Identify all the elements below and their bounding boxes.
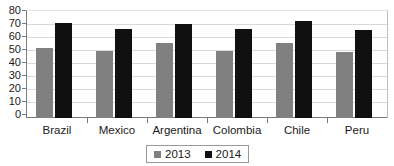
x-tick-mark [207, 118, 208, 123]
bar-colombia-2013 [216, 51, 233, 118]
y-tick-mark [22, 23, 26, 24]
y-tick-label: 50 [9, 44, 21, 55]
y-tick-label: 0 [15, 109, 21, 120]
legend-label: 2014 [216, 148, 242, 160]
legend: 2013 2014 [146, 145, 249, 163]
y-tick-label: 30 [9, 70, 21, 81]
bar-brazil-2014 [55, 23, 72, 118]
y-tick-label: 40 [9, 57, 21, 68]
bar-chart: 80 70 60 50 40 30 20 10 0 BrazilMexicoAr… [0, 0, 394, 166]
bar-peru-2014 [355, 30, 372, 118]
y-tick-mark [22, 36, 26, 37]
y-tick-mark [22, 62, 26, 63]
y-tick-mark [22, 88, 26, 89]
bar-brazil-2013 [36, 48, 53, 118]
x-category-label: Mexico [87, 124, 147, 137]
x-category-label: Argentina [147, 124, 207, 137]
legend-swatch-icon [154, 151, 161, 158]
y-tick-label: 10 [9, 96, 21, 107]
x-category-label: Peru [327, 124, 387, 137]
y-tick-label: 80 [9, 5, 21, 16]
y-tick-label: 70 [9, 18, 21, 29]
y-tick-label: 60 [9, 31, 21, 42]
x-category-label: Colombia [207, 124, 267, 137]
bar-mexico-2013 [96, 51, 113, 118]
bar-colombia-2014 [235, 29, 252, 118]
y-tick-mark [22, 75, 26, 76]
x-category-label: Brazil [27, 124, 87, 137]
legend-item-2013[interactable]: 2013 [154, 148, 191, 160]
bar-mexico-2014 [115, 29, 132, 118]
y-tick-mark [22, 114, 26, 115]
bar-series-group [27, 11, 387, 118]
x-tick-mark [147, 118, 148, 123]
x-axis: BrazilMexicoArgentinaColombiaChilePeru [27, 118, 387, 142]
x-category-label: Chile [267, 124, 327, 137]
y-tick-mark [22, 101, 26, 102]
legend-swatch-icon [205, 151, 212, 158]
y-tick-mark [22, 10, 26, 11]
bar-chile-2014 [295, 21, 312, 118]
legend-item-2014[interactable]: 2014 [205, 148, 242, 160]
y-axis: 80 70 60 50 40 30 20 10 0 [0, 0, 26, 130]
y-tick-mark [22, 49, 26, 50]
x-tick-mark [267, 118, 268, 123]
legend-label: 2013 [165, 148, 191, 160]
bar-chile-2013 [276, 43, 293, 118]
y-tick-label: 20 [9, 83, 21, 94]
bar-argentina-2014 [175, 24, 192, 118]
x-tick-mark [87, 118, 88, 123]
x-tick-mark [327, 118, 328, 123]
bar-argentina-2013 [156, 43, 173, 118]
bar-peru-2013 [336, 52, 353, 118]
